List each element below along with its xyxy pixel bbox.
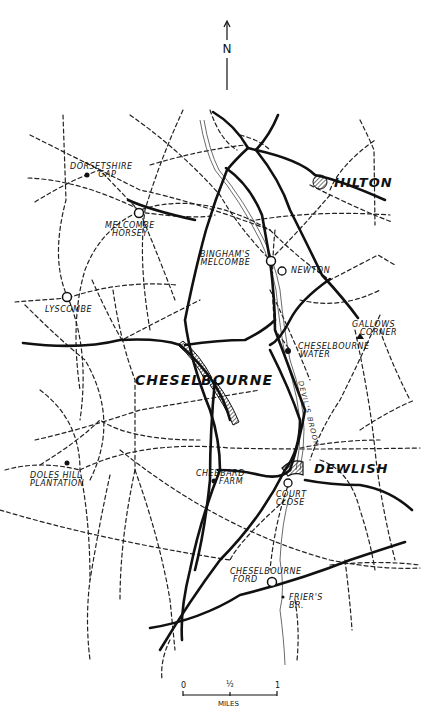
hamlet-newton-marker (278, 267, 286, 275)
scale-tick-1: 1 (275, 681, 280, 690)
scale-unit: MILES (218, 700, 239, 708)
label-lyscombe: LYSCOMBE (45, 306, 92, 314)
scale-tick-0: 0 (181, 681, 186, 690)
site-cheselbourne-water-marker (285, 348, 291, 354)
hamlet-melcombe-horsey-marker (135, 209, 144, 218)
label-cheselbourne-water: CHESELBOURNE WATER (298, 343, 369, 359)
label-chebbard-farm: CHEBBARD FARM (196, 470, 245, 486)
scale-tick-half: ½ (226, 680, 234, 689)
label-newton: NEWTON (291, 267, 330, 275)
site-doles-hill-marker (65, 461, 70, 466)
hamlet-lyscombe-marker (63, 293, 72, 302)
label-doles-hill-plantation: DOLES HILL PLANTATION (30, 472, 84, 488)
scale-bar (183, 691, 277, 696)
village-hilton-marker (313, 175, 327, 189)
label-friers-br: FRIER'S BR. (289, 594, 323, 610)
hamlet-binghams-melcombe-marker (267, 257, 276, 266)
north-label: N (220, 42, 234, 56)
label-melcombe-horsey: MELCOMBE HORSEY (105, 222, 155, 238)
label-dorsetshire-gap: DORSETSHIRE GAP (70, 163, 133, 179)
label-hilton: HILTON (334, 176, 393, 189)
label-binghams-melcombe: BINGHAM'S MELCOMBE (200, 251, 250, 267)
label-dewlish: DEWLISH (314, 462, 388, 475)
label-court-close: COURT CLOSE (276, 491, 307, 507)
label-gallows-corner: GALLOWS CORNER (352, 321, 397, 337)
hamlet-court-close-marker (284, 479, 292, 487)
label-cheselbourne-ford: CHESELBOURNE FORD (230, 568, 301, 584)
label-cheselbourne: CHESELBOURNE (135, 373, 273, 387)
footpaths (0, 110, 420, 680)
map-canvas (0, 0, 426, 720)
friers-bridge-marker (282, 596, 285, 599)
